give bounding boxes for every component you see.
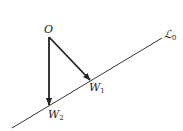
w1-main: W [89,81,100,94]
vector-o-w1 [49,37,90,80]
w2-label: W2 [48,109,64,122]
line-label: ℒ0 [164,29,176,42]
w1-label: W1 [89,82,105,95]
line-label-main: ℒ [164,28,172,41]
w2-main: W [48,108,59,121]
w2-sub: 2 [59,114,63,122]
diagram-svg [0,0,183,131]
origin-label: O [44,24,53,35]
w1-sub: 1 [100,87,104,95]
diagram: O ℒ0 W1 W2 [0,0,183,131]
line-l0 [12,38,162,128]
line-label-sub: 0 [172,34,176,42]
